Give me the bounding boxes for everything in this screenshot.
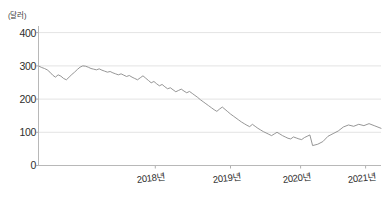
stock-price-chart: (달러) 400 300 200 100 0 2018년 2019년 2020년… bbox=[0, 0, 388, 205]
price-line bbox=[39, 66, 381, 146]
gridlines bbox=[39, 33, 381, 133]
plot-area bbox=[0, 0, 388, 205]
